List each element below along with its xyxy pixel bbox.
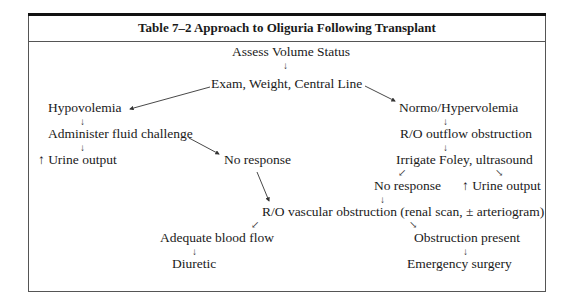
down-right-arrow-icon: ↘	[495, 168, 503, 178]
node-ro-outflow-obstruction: R/O outflow obstruction	[400, 126, 532, 142]
node-irrigate-foley-ultrasound: Irrigate Foley, ultrasound	[396, 152, 533, 168]
down-left-arrow-icon: ↙	[398, 168, 406, 178]
node-ro-vascular-obstruction: R/O vascular obstruction (renal scan, ± …	[262, 204, 544, 220]
node-adequate-blood-flow: Adequate blood flow	[160, 230, 274, 246]
down-left-arrow-icon: ↙	[251, 220, 259, 230]
node-emergency-surgery: Emergency surgery	[407, 256, 512, 272]
node-assess-volume-status: Assess Volume Status	[232, 44, 350, 60]
node-obstruction-present: Obstruction present	[414, 230, 520, 246]
down-arrow-icon: ↓	[283, 61, 288, 71]
node-right-no-response: No response	[374, 178, 441, 194]
table-title: Table 7–2 Approach to Oliguria Following…	[28, 19, 546, 37]
node-administer-fluid-challenge: Administer fluid challenge	[48, 126, 193, 142]
table-top-rule	[28, 13, 546, 16]
table-header-divider	[28, 41, 546, 42]
node-normo-hypervolemia: Normo/Hypervolemia	[399, 100, 518, 116]
node-left-no-response: No response	[224, 152, 291, 168]
down-right-arrow-icon: ↘	[409, 220, 417, 230]
node-right-urine-output: ↑ Urine output	[462, 178, 541, 194]
node-diuretic: Diuretic	[172, 256, 216, 272]
node-hypovolemia: Hypovolemia	[48, 100, 122, 116]
node-left-urine-output: ↑ Urine output	[38, 152, 117, 168]
node-exam-weight-central-line: Exam, Weight, Central Line	[211, 76, 362, 92]
